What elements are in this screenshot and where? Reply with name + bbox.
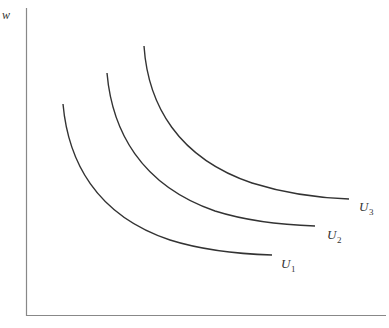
y-axis-label: w [2, 8, 10, 22]
curve-u2 [107, 73, 315, 226]
indifference-curve-diagram: w U 1 U 2 U 3 [0, 0, 389, 328]
label-u2: U 2 [327, 227, 342, 245]
svg-text:2: 2 [337, 235, 342, 245]
svg-text:3: 3 [369, 207, 374, 217]
svg-text:1: 1 [291, 264, 296, 274]
curve-u3 [144, 46, 349, 199]
label-u1: U 1 [281, 256, 296, 274]
label-u3: U 3 [359, 199, 374, 217]
